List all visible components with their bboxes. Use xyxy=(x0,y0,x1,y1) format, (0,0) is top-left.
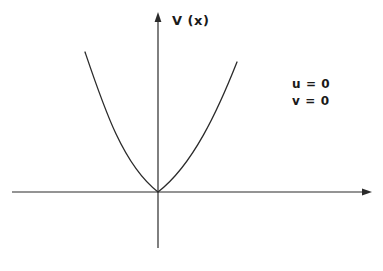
plot-canvas xyxy=(0,0,383,271)
annotation-u: u = 0 xyxy=(292,77,330,91)
annotation-block: u = 0 v = 0 xyxy=(292,77,330,108)
x-axis-arrowhead xyxy=(362,189,372,196)
y-axis-label: V (x) xyxy=(172,13,209,28)
y-axis-arrowhead xyxy=(155,12,162,22)
parabola-curve xyxy=(85,52,237,192)
annotation-v: v = 0 xyxy=(292,94,330,108)
potential-well-figure: V (x) u = 0 v = 0 xyxy=(0,0,383,271)
